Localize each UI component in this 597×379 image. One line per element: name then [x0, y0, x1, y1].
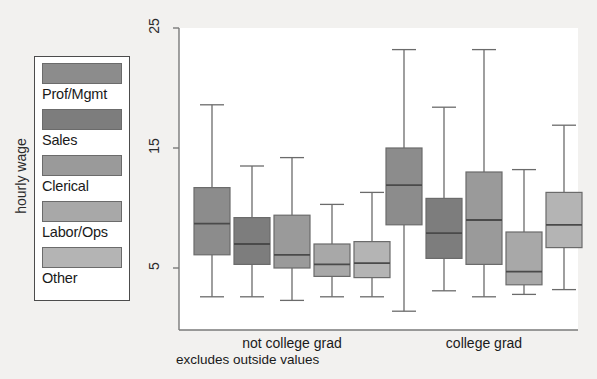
- y-tick-label-25: 25: [141, 18, 167, 34]
- x-tick-label-not-college-grad: not college grad: [192, 335, 392, 351]
- boxplot-figure: Prof/Mgmt Sales Clerical Labor/Ops Other…: [0, 0, 597, 379]
- plot-area: [0, 0, 597, 379]
- y-tick-label-15: 15: [141, 138, 167, 154]
- x-tick-label-college-grad: college grad: [384, 335, 584, 351]
- y-tick-label-5: 5: [141, 258, 167, 274]
- footnote: excludes outside values: [176, 352, 319, 367]
